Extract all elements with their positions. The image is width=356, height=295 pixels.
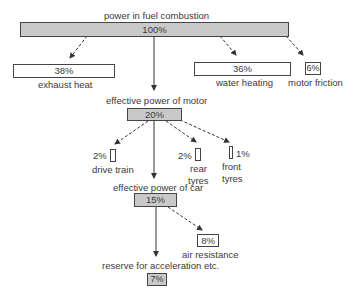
air-resistance-value: 8% (201, 235, 215, 246)
water-heating-value: 36% (233, 63, 252, 74)
arrow-to-drive-train (115, 121, 148, 144)
exhaust-heat-value: 38% (54, 65, 73, 76)
front-tyres-value: 1% (236, 148, 250, 159)
air-resistance-label: air resistance (182, 249, 239, 260)
front-tyres-label-2: tyres (222, 173, 243, 184)
car-power-title: effective power of car (113, 182, 203, 193)
exhaust-heat-box: 38% (13, 64, 115, 78)
reserve-title: reserve for acceleration etc. (102, 260, 219, 271)
water-heating-box: 36% (194, 62, 291, 76)
fuel-combustion-title: power in fuel combustion (104, 10, 209, 21)
motor-power-value: 20% (145, 109, 164, 120)
reserve-value: 7% (150, 274, 163, 284)
rear-tyres-label-1: rear (190, 163, 207, 174)
motor-power-title: effective power of motor (106, 95, 207, 106)
car-power-box: 15% (134, 193, 177, 207)
air-resistance-box: 8% (197, 234, 219, 247)
drive-train-value: 2% (93, 150, 107, 161)
arrow-to-exhaust (70, 36, 87, 58)
motor-friction-box: 6% (305, 62, 321, 75)
motor-friction-label: motor friction (288, 77, 343, 88)
arrow-to-air (168, 207, 202, 230)
motor-friction-value: 6% (306, 63, 319, 73)
arrow-to-front-tyres (180, 120, 229, 142)
arrow-to-water (220, 36, 236, 55)
front-tyres-box (229, 146, 233, 159)
arrow-to-friction (286, 36, 303, 55)
drive-train-label: drive train (92, 164, 134, 175)
rear-tyres-value: 2% (178, 150, 192, 161)
fuel-combustion-value: 100% (142, 24, 166, 35)
front-tyres-label-1: front (222, 161, 241, 172)
exhaust-heat-label: exhaust heat (38, 79, 92, 90)
car-power-value: 15% (146, 194, 165, 205)
water-heating-label: water heating (216, 77, 273, 88)
reserve-box: 7% (147, 273, 167, 286)
rear-tyres-box (195, 148, 201, 161)
fuel-combustion-box: 100% (20, 22, 289, 37)
arrows-layer (0, 0, 356, 295)
motor-power-box: 20% (127, 108, 182, 121)
drive-train-box (110, 149, 116, 162)
arrow-to-rear-tyres (166, 121, 196, 142)
